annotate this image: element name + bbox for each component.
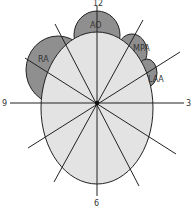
label-ao: AO (90, 21, 102, 30)
center-dot (95, 101, 99, 105)
label-mpa: MPA (133, 44, 150, 53)
clock-6: 6 (94, 199, 99, 208)
label-ra: RA (38, 55, 49, 64)
clock-3: 3 (186, 99, 191, 108)
label-laa: LAA (148, 75, 164, 84)
heart-clock-diagram: AO MPA LAA RA 12 3 6 9 (0, 0, 194, 208)
clock-9: 9 (2, 99, 7, 108)
clock-12: 12 (93, 0, 103, 8)
